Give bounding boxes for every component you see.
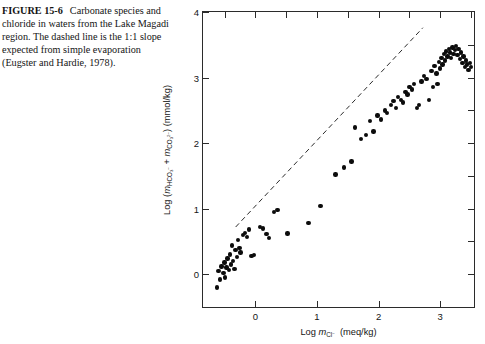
x-tick-top	[471, 12, 472, 18]
data-point	[364, 133, 368, 137]
data-point	[267, 236, 271, 240]
data-point	[232, 267, 236, 271]
data-point	[342, 165, 346, 169]
plot-area	[203, 12, 474, 307]
data-point	[235, 255, 239, 259]
data-point	[438, 66, 442, 70]
data-point	[419, 79, 423, 83]
y-tick-right	[468, 209, 474, 210]
y-tick-right	[468, 78, 474, 79]
y-tick-label: 3	[194, 72, 199, 83]
data-point	[394, 106, 398, 110]
x-tick-top	[225, 12, 226, 18]
x-tick-top	[286, 12, 287, 18]
y-tick-label: 2	[194, 138, 199, 149]
data-point	[443, 58, 447, 62]
data-point	[261, 226, 265, 230]
data-point	[223, 275, 227, 279]
x-tick-label: 0	[253, 311, 258, 322]
y-tick-label: 0	[194, 269, 199, 280]
y-tick-label: 1	[194, 203, 199, 214]
data-point	[230, 243, 234, 247]
data-point	[385, 111, 389, 115]
data-point	[410, 87, 414, 91]
data-point	[405, 92, 409, 96]
data-point	[440, 62, 444, 66]
data-point	[401, 100, 405, 104]
data-point	[424, 77, 428, 81]
y-tick-label: 4	[194, 7, 199, 18]
x-tick-label: 3	[437, 311, 442, 322]
x-tick: 2	[379, 301, 380, 307]
x-tick-top	[379, 12, 380, 18]
x-tick-top	[255, 12, 256, 18]
x-tick-label: 1	[314, 311, 319, 322]
data-point	[353, 125, 357, 129]
y-axis-title: Log (mHCO3− + mCO32−) (mmol/kg)	[162, 85, 174, 215]
data-point	[349, 159, 353, 163]
y-tick-right	[468, 241, 474, 242]
data-point	[391, 99, 395, 103]
y-tick: 2	[203, 143, 209, 144]
y-tick-right	[468, 45, 474, 46]
figure-number: FIGURE 15-6	[2, 5, 63, 16]
data-point	[238, 250, 242, 254]
data-point	[435, 82, 439, 86]
data-point	[449, 56, 453, 60]
data-point	[236, 238, 240, 242]
data-point	[318, 204, 322, 208]
y-tick-right	[468, 176, 474, 177]
y-tick: 4	[203, 12, 209, 13]
x-tick-top	[409, 12, 410, 18]
y-tick-right	[468, 143, 474, 144]
data-point	[389, 103, 393, 107]
data-point	[434, 71, 438, 75]
data-point	[333, 172, 337, 176]
data-point	[379, 117, 383, 121]
data-point	[228, 252, 232, 256]
data-point	[359, 137, 363, 141]
x-tick-top	[348, 12, 349, 18]
data-point	[412, 82, 416, 86]
data-point	[368, 119, 372, 123]
data-point	[469, 65, 473, 69]
y-tick: 1	[203, 209, 209, 210]
data-point	[225, 256, 229, 260]
data-point	[219, 264, 223, 268]
y-tick-right	[468, 110, 474, 111]
one-to-one-dashed-line	[203, 12, 474, 307]
data-point	[231, 259, 235, 263]
data-point	[252, 253, 256, 257]
x-tick-top	[317, 12, 318, 18]
data-point	[222, 260, 226, 264]
data-point	[227, 268, 231, 272]
data-point	[427, 98, 431, 102]
x-tick-top	[440, 12, 441, 18]
y-tick: 3	[203, 78, 209, 79]
y-tick-right	[468, 274, 474, 275]
data-point	[431, 85, 435, 89]
y-tick: 0	[203, 274, 209, 275]
data-point	[432, 64, 436, 68]
scatter-figure: 012340123 Log (mHCO3− + mCO32−) (mmol/kg…	[180, 0, 485, 344]
figure-page: FIGURE 15-6Carbonate species and chlorid…	[0, 0, 485, 344]
data-point	[371, 129, 375, 133]
data-point	[275, 208, 279, 212]
data-point	[247, 227, 251, 231]
plot-frame: 012340123	[202, 11, 475, 308]
data-point	[306, 221, 310, 225]
data-point	[215, 285, 219, 289]
data-point	[417, 103, 421, 107]
x-tick: 1	[317, 301, 318, 307]
data-point	[285, 231, 289, 235]
data-point	[216, 269, 220, 273]
x-tick: 3	[440, 301, 441, 307]
figure-caption: FIGURE 15-6Carbonate species and chlorid…	[2, 4, 170, 69]
x-tick-label: 2	[376, 311, 381, 322]
data-point	[429, 69, 433, 73]
x-tick: 0	[255, 301, 256, 307]
data-point	[245, 235, 249, 239]
x-axis-title: Log mCl− (meq/kg)	[202, 327, 475, 338]
data-point	[218, 277, 222, 281]
